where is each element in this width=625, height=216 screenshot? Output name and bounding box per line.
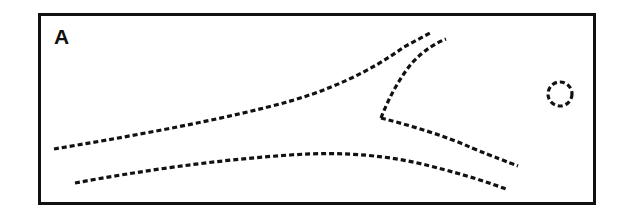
figure-drawing	[0, 0, 625, 216]
lower-long-curve	[75, 154, 506, 189]
right-upper-branch	[381, 39, 446, 118]
figure-panel: A	[0, 0, 625, 216]
upper-left-branch	[54, 33, 430, 149]
panel-label: A	[54, 26, 69, 48]
dashed-circle	[548, 82, 572, 106]
